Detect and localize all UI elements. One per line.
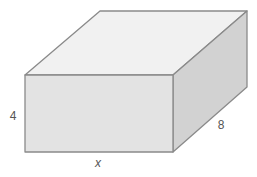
front-face xyxy=(25,75,173,152)
prism-svg: 4 8 x xyxy=(0,0,257,177)
height-label: 4 xyxy=(10,109,17,123)
width-label: x xyxy=(94,156,102,170)
depth-label: 8 xyxy=(218,118,225,132)
prism-diagram: 4 8 x xyxy=(0,0,257,177)
